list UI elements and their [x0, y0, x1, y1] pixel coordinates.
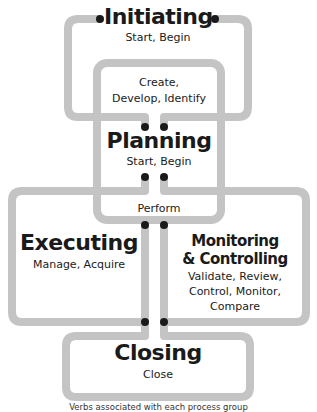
monitoring-verbs-1: Validate, Review, [168, 270, 302, 284]
monitoring-verbs-3: Compare [168, 300, 302, 314]
closing-title: Closing [70, 340, 246, 365]
monitoring-title-2: & Controlling [168, 250, 302, 268]
planning-inner-verbs-1: Create, [100, 76, 218, 90]
planning-verbs: Start, Begin [100, 155, 218, 169]
caption: Verbs associated with each process group [0, 402, 317, 412]
monitoring-verbs-2: Control, Monitor, [168, 285, 302, 299]
monitoring-title-1: Monitoring [168, 232, 302, 250]
closing-verbs: Close [70, 368, 246, 382]
initiating-title: Initiating [104, 4, 212, 29]
initiating-verbs: Start, Begin [104, 31, 212, 45]
planning-inner-verbs-2: Develop, Identify [100, 92, 218, 106]
executing-title: Executing [16, 230, 142, 255]
executing-verbs: Manage, Acquire [16, 258, 142, 272]
perform-label: Perform [100, 202, 218, 216]
planning-title: Planning [100, 128, 218, 153]
